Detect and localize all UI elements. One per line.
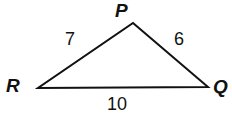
vertex-label-q: Q: [213, 77, 228, 96]
vertex-label-r: R: [6, 76, 20, 95]
side-length-label-pr: 7: [65, 30, 75, 48]
triangle-figure: P R Q 7 6 10: [0, 0, 232, 129]
vertex-label-p: P: [115, 1, 128, 20]
side-length-label-pq: 6: [174, 30, 184, 48]
side-length-label-rq: 10: [107, 95, 127, 113]
